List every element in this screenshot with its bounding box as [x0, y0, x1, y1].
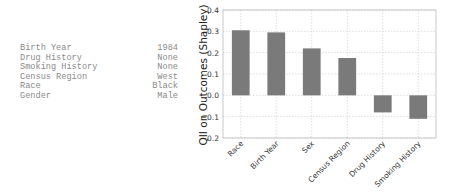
bar	[409, 95, 427, 118]
x-axis-ticks: RaceBirth YearSexCensus RegionDrug Histo…	[226, 138, 423, 189]
x-tick-label: Race	[226, 139, 246, 159]
x-tick-label: Sex	[300, 139, 316, 155]
grid-lines	[223, 10, 436, 138]
bar	[374, 95, 392, 112]
bar	[338, 58, 356, 95]
bars	[232, 30, 427, 119]
y-axis-label: QII on Outcomes (Shapley)	[197, 4, 209, 145]
x-tick-label: Birth Year	[249, 138, 282, 171]
bar	[232, 30, 250, 95]
bar	[267, 32, 285, 95]
shapley-bar-chart: 0.40.30.20.10.0−0.1−0.2 RaceBirth YearSe…	[0, 0, 456, 193]
bar	[303, 48, 321, 95]
